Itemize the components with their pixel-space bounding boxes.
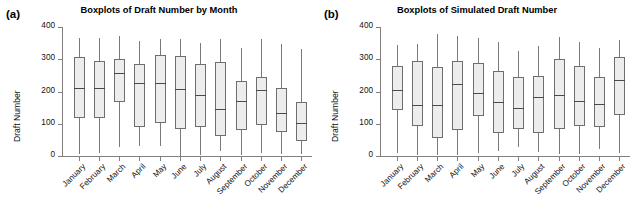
y-tick-label: 100 [28, 118, 55, 127]
boxplot-box [296, 102, 307, 141]
y-tick [376, 124, 380, 125]
boxplot-box [392, 66, 403, 110]
median-line [175, 89, 186, 90]
boxplot-box [256, 77, 267, 125]
x-tick [478, 157, 479, 161]
y-tick-label: 0 [28, 150, 55, 159]
y-axis-label: Draft Number [330, 90, 340, 142]
y-tick-label: 100 [346, 118, 373, 127]
median-line [452, 84, 463, 85]
median-line [276, 113, 287, 114]
x-tick [241, 157, 242, 161]
x-tick [79, 157, 80, 161]
x-tick [579, 157, 580, 161]
median-line [594, 104, 605, 105]
chart-title: Boxplots of Draft Number by Month [0, 5, 318, 15]
median-line [554, 95, 565, 96]
median-line [134, 83, 145, 84]
y-axis-label: Draft Number [12, 90, 22, 142]
y-tick [58, 27, 62, 28]
boxplot-figure: (a)Boxplots of Draft Number by Month0100… [0, 0, 637, 223]
boxplot-box [614, 57, 625, 115]
x-tick [220, 157, 221, 161]
y-tick [376, 27, 380, 28]
median-line [432, 105, 443, 106]
x-tick [457, 157, 458, 161]
median-line [155, 83, 166, 84]
y-tick [376, 156, 380, 157]
x-tick [281, 157, 282, 161]
x-tick [180, 157, 181, 161]
median-line [74, 88, 85, 89]
x-tick [599, 157, 600, 161]
boxplot-box [513, 77, 524, 129]
median-line [195, 95, 206, 96]
x-tick [261, 157, 262, 161]
boxplot-box [134, 64, 145, 127]
y-tick-label: 400 [28, 21, 55, 30]
boxplot-box [533, 76, 544, 133]
boxplot-box [594, 77, 605, 127]
median-line [493, 102, 504, 103]
y-tick-label: 200 [28, 86, 55, 95]
boxplot-box [215, 62, 226, 136]
x-tick [99, 157, 100, 161]
x-tick [119, 157, 120, 161]
panel-b: (b)Boxplots of Simulated Draft Number010… [318, 0, 636, 223]
boxplot-box [452, 61, 463, 130]
boxplot-box [554, 59, 565, 130]
median-line [392, 90, 403, 91]
boxplot-box [276, 88, 287, 133]
median-line [412, 105, 423, 106]
boxplot-box [155, 55, 166, 123]
x-tick [538, 157, 539, 161]
median-line [256, 90, 267, 91]
x-tick [437, 157, 438, 161]
boxplot-box [236, 81, 247, 130]
y-tick [58, 92, 62, 93]
y-axis-line [380, 27, 381, 156]
median-line [574, 101, 585, 102]
y-tick [58, 156, 62, 157]
x-tick [301, 157, 302, 161]
median-line [533, 97, 544, 98]
x-tick [417, 157, 418, 161]
median-line [215, 109, 226, 110]
x-tick [518, 157, 519, 161]
median-line [94, 88, 105, 89]
x-tick [139, 157, 140, 161]
x-tick [498, 157, 499, 161]
boxplot-box [114, 59, 125, 102]
x-tick [160, 157, 161, 161]
x-tick [559, 157, 560, 161]
y-tick-label: 200 [346, 86, 373, 95]
median-line [513, 108, 524, 109]
boxplot-box [412, 61, 423, 126]
boxplot-box [432, 67, 443, 138]
x-tick [200, 157, 201, 161]
median-line [473, 93, 484, 94]
y-tick [58, 124, 62, 125]
y-axis-line [62, 27, 63, 156]
y-tick [58, 59, 62, 60]
median-line [236, 101, 247, 102]
y-tick-label: 300 [346, 53, 373, 62]
x-tick [619, 157, 620, 161]
median-line [114, 73, 125, 74]
y-tick-label: 400 [346, 21, 373, 30]
median-line [296, 123, 307, 124]
y-tick [376, 92, 380, 93]
boxplot-box [574, 66, 585, 125]
boxplot-box [473, 63, 484, 116]
x-tick [397, 157, 398, 161]
y-tick-label: 0 [346, 150, 373, 159]
median-line [614, 80, 625, 81]
y-tick [376, 59, 380, 60]
y-tick-label: 300 [28, 53, 55, 62]
panel-a: (a)Boxplots of Draft Number by Month0100… [0, 0, 318, 223]
boxplot-box [175, 56, 186, 130]
chart-title: Boxplots of Simulated Draft Number [318, 5, 636, 15]
